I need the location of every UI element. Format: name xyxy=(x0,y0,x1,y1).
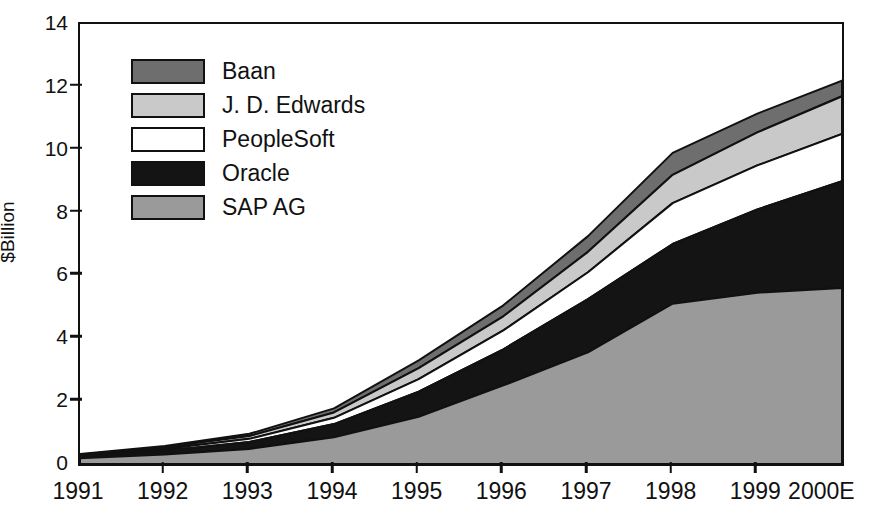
legend-label-text: PeopleSoft xyxy=(222,128,335,151)
y-tick-label-12: 12 xyxy=(45,74,68,95)
y-tick-label-4: 4 xyxy=(56,326,68,347)
x-tick-mark-1995 xyxy=(415,462,418,473)
x-tick-label-2000E: 2000E xyxy=(788,478,855,505)
legend-item-sap-ag: SAP AG xyxy=(131,192,365,223)
x-tick-mark-1996 xyxy=(500,462,503,473)
x-tick-label-1991: 1991 xyxy=(52,478,103,505)
legend-label-text: J. D. Edwards xyxy=(222,94,365,117)
y-tick-mark-10 xyxy=(70,146,82,149)
legend-swatch-peoplesoft xyxy=(131,127,205,152)
x-tick-mark-1998 xyxy=(669,462,672,473)
legend-item-oracle: Oracle xyxy=(131,158,365,189)
legend-swatch-jdedwards xyxy=(131,93,205,118)
y-tick-mark-2 xyxy=(70,398,82,401)
x-tick-label-1994: 1994 xyxy=(306,478,357,505)
x-tick-label-1995: 1995 xyxy=(391,478,442,505)
y-tick-mark-4 xyxy=(70,335,82,338)
x-tick-label-1997: 1997 xyxy=(560,478,611,505)
x-tick-label-1998: 1998 xyxy=(645,478,696,505)
x-tick-label-1992: 1992 xyxy=(137,478,188,505)
x-tick-mark-1994 xyxy=(331,462,334,473)
legend-label-text: SAP AG xyxy=(222,196,306,219)
legend-label-text: Baan xyxy=(222,60,276,83)
x-tick-label-1999: 1999 xyxy=(730,478,781,505)
x-tick-mark-1997 xyxy=(585,462,588,473)
x-tick-mark-1993 xyxy=(246,462,249,473)
legend-item-j-d-edwards: J. D. Edwards xyxy=(131,90,365,121)
y-tick-label-10: 10 xyxy=(45,137,68,158)
top-margin-strip xyxy=(0,0,881,8)
y-tick-mark-6 xyxy=(70,272,82,275)
legend-swatch-oracle xyxy=(131,161,205,186)
y-tick-label-14: 14 xyxy=(45,12,68,33)
stacked-area-chart: $Billion 14121086420 1991199219931994199… xyxy=(0,0,881,515)
legend-item-baan: Baan xyxy=(131,56,365,87)
legend-label-text: Oracle xyxy=(222,162,290,185)
y-tick-label-6: 6 xyxy=(56,263,68,284)
chart-legend: BaanJ. D. EdwardsPeopleSoftOracleSAP AG xyxy=(131,56,365,226)
x-tick-label-1993: 1993 xyxy=(222,478,273,505)
x-tick-label-1996: 1996 xyxy=(476,478,527,505)
y-axis-labels: 14121086420 xyxy=(0,0,68,515)
legend-item-peoplesoft: PeopleSoft xyxy=(131,124,365,155)
legend-swatch-baan xyxy=(131,59,205,84)
y-tick-label-2: 2 xyxy=(56,389,68,410)
y-tick-mark-12 xyxy=(70,84,82,87)
x-tick-mark-1992 xyxy=(161,462,164,473)
x-tick-mark-1999 xyxy=(754,462,757,473)
y-tick-label-0: 0 xyxy=(56,452,68,473)
legend-swatch-sapag xyxy=(131,195,205,220)
y-tick-mark-8 xyxy=(70,209,82,212)
y-tick-label-8: 8 xyxy=(56,200,68,221)
